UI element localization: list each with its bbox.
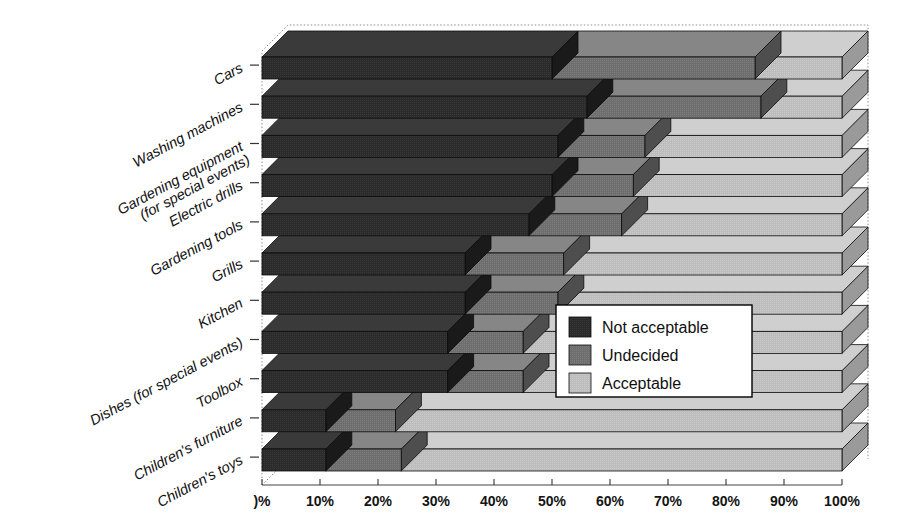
legend-swatch[interactable]	[569, 373, 591, 393]
bar-segment[interactable]	[262, 31, 578, 79]
chart-container: )%10%20%30%40%50%60%70%80%90%100% CarsWa…	[0, 0, 910, 532]
legend-label: Not acceptable	[602, 319, 709, 336]
x-axis-tick-label: )%	[253, 493, 271, 509]
bar-segment-front	[262, 135, 558, 157]
bar-segment-front	[262, 253, 465, 275]
bar-segment-front	[622, 214, 842, 236]
bar-segment-front	[587, 96, 761, 118]
bar-segment-front	[262, 292, 465, 314]
legend-label: Acceptable	[602, 375, 681, 392]
x-axis-tick-label: 50%	[538, 493, 567, 509]
bar-segment-front	[564, 253, 842, 275]
stacked-bar-chart-3d: )%10%20%30%40%50%60%70%80%90%100% CarsWa…	[0, 0, 910, 532]
x-axis-tick-label: 70%	[654, 493, 683, 509]
plot-area	[262, 25, 868, 485]
bar-row[interactable]	[262, 31, 868, 79]
bar-segment-front	[262, 96, 587, 118]
bar-segment-front	[262, 371, 448, 393]
x-axis-tick-label: 40%	[480, 493, 509, 509]
bar-segment-front	[633, 175, 842, 197]
x-axis-tick-label: 30%	[422, 493, 451, 509]
bar-segment[interactable]	[552, 31, 781, 79]
bar-segment-top	[262, 31, 578, 57]
legend-swatch[interactable]	[569, 317, 591, 337]
bar-segment-front	[262, 214, 529, 236]
bar-segment-front	[262, 331, 448, 353]
x-axis-tick-label: 80%	[712, 493, 741, 509]
legend-label: Undecided	[602, 347, 679, 364]
x-axis-tick-label: 20%	[364, 493, 393, 509]
bar-segment-front	[552, 57, 755, 79]
bar-segment-front	[645, 135, 842, 157]
bar-segment-top	[552, 31, 781, 57]
bar-segment-front	[262, 175, 552, 197]
bar-segment-front	[262, 449, 326, 471]
x-axis-tick-label: 10%	[306, 493, 335, 509]
bar-segment-front	[395, 410, 842, 432]
chart-legend: Not acceptableUndecidedAcceptable	[556, 305, 752, 397]
x-axis-tick-label: 60%	[596, 493, 625, 509]
bar-segment-front	[262, 57, 552, 79]
x-axis-tick-label: 100%	[824, 493, 860, 509]
legend-swatch[interactable]	[569, 345, 591, 365]
bar-segment-front	[401, 449, 842, 471]
x-axis-tick-label: 90%	[770, 493, 799, 509]
bar-segment-front	[262, 410, 326, 432]
